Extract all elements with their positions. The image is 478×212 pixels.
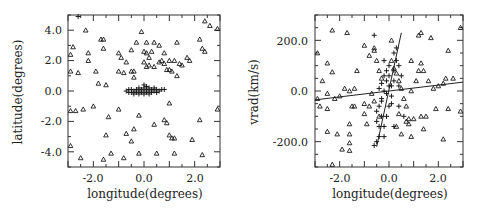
triangle-marker [154,151,159,155]
triangle-marker [419,30,424,34]
triangle-marker [362,43,367,47]
triangle-marker [175,40,180,44]
triangle-marker [347,141,352,145]
triangle-marker [409,58,414,62]
triangle-marker [119,55,124,59]
triangle-marker [320,79,325,83]
triangle-marker [76,70,81,74]
latitude-longitude-scatter-plot: 4.0 2.0 0.0 -2.0 -4.0 -2.0 0.0 2.0 longi… [0,0,240,212]
triangle-marker [443,76,448,80]
plus-marker [379,81,384,86]
plus-marker [374,119,379,124]
triangle-marker [200,153,205,157]
triangle-marker [434,106,439,110]
plus-marker [379,99,384,104]
plus-marker [387,83,392,88]
triangle-marker [129,139,134,143]
triangle-marker [389,38,394,42]
y-tick-label: 2.0 [45,54,63,67]
plus-marker [389,101,394,106]
plus-marker [372,143,377,148]
y-tick-label: 4.0 [45,24,63,37]
triangle-marker [421,68,426,72]
triangle-marker [416,33,421,37]
triangle-marker [419,114,424,118]
triangle-marker [406,122,411,126]
triangle-marker [325,61,330,65]
left-data-markers [68,14,220,161]
plus-marker [382,134,387,139]
right-y-tick-labels: 200.0 0.0 -200.0 [273,35,308,149]
triangle-marker [325,106,330,110]
triangle-marker [347,148,352,152]
plus-marker [377,134,382,139]
plus-marker [391,78,396,83]
triangle-marker [402,96,407,100]
right-x-axis-label: longitude(degrees) [332,187,448,201]
triangle-marker [147,55,152,59]
triangle-marker [124,131,129,135]
triangle-marker [208,23,213,27]
triangle-marker [162,118,167,122]
triangle-marker [162,61,167,65]
plus-marker [389,94,394,99]
triangle-marker [167,58,172,62]
triangle-marker [362,112,367,116]
triangle-marker [424,114,429,118]
triangle-marker [446,48,451,52]
triangle-marker [441,137,446,141]
triangle-marker [367,104,372,108]
triangle-marker [68,52,73,56]
left-x-tick-labels: -2.0 0.0 2.0 [82,172,203,185]
plus-marker [382,58,387,63]
triangle-marker [399,132,404,136]
plus-marker [401,114,406,119]
right-y-axis-label: vrad(km/s) [247,59,261,126]
triangle-marker [409,89,414,93]
triangle-marker [104,83,109,87]
triangle-marker [71,45,76,49]
triangle-marker [149,49,154,53]
triangle-marker [458,109,463,113]
triangle-marker [137,113,142,117]
triangle-marker [367,53,372,57]
triangle-marker [340,147,345,151]
triangle-marker [167,101,172,105]
left-y-tick-labels: 4.0 2.0 0.0 -2.0 -4.0 [41,24,62,159]
plus-marker [387,63,392,68]
triangle-marker [142,60,147,64]
triangle-marker [116,107,121,111]
triangle-marker [362,101,367,105]
right-data-markers [315,25,463,166]
triangle-marker [394,71,399,75]
right-fit-lines [315,33,463,147]
triangle-marker [419,61,424,65]
plus-marker [396,63,401,68]
triangle-marker [167,133,172,137]
y-tick-label: 200.0 [277,35,309,48]
triangle-marker [68,143,73,147]
y-tick-label: -2.0 [41,115,62,128]
triangle-marker [365,122,370,126]
plus-marker [384,78,389,83]
triangle-marker [121,70,126,74]
triangle-marker [129,48,134,52]
triangle-marker [132,127,137,131]
y-tick-label: -200.0 [273,136,308,149]
x-tick-label: 2.0 [429,172,447,185]
plus-marker [382,89,387,94]
triangle-marker [165,121,170,125]
triangle-marker [68,69,73,73]
triangle-marker [172,136,177,140]
plus-marker [384,68,389,73]
triangle-marker [426,79,431,83]
triangle-marker [104,133,109,137]
triangle-marker [101,157,106,161]
triangle-marker [132,69,137,73]
triangle-marker [318,104,323,108]
triangle-marker [200,46,205,50]
triangle-marker [83,28,88,32]
triangle-marker [96,81,101,85]
triangle-marker [397,112,402,116]
triangle-marker [157,43,162,47]
